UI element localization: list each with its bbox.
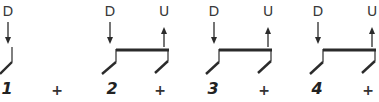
up-arrow-icon: [265, 27, 271, 47]
count-and-1: +: [51, 83, 63, 97]
down-arrow-icon: [211, 22, 217, 44]
up-arrow-icon: [161, 27, 167, 47]
count-1: 1: [1, 81, 12, 97]
count-3: 3: [207, 81, 218, 97]
count-and-4: +: [362, 83, 374, 97]
down-arrow-icon: [315, 22, 321, 44]
note-head-1: [0, 62, 12, 74]
count-2: 2: [106, 81, 117, 97]
count-4: 4: [311, 81, 322, 97]
up-arrow-icon: [369, 27, 375, 47]
count-and-3: +: [258, 83, 270, 97]
down-arrow-icon: [107, 22, 113, 44]
down-arrow-icon: [5, 22, 11, 44]
strumming-pattern-diagram: D D U D U D U: [0, 0, 379, 102]
count-and-2: +: [154, 83, 166, 97]
